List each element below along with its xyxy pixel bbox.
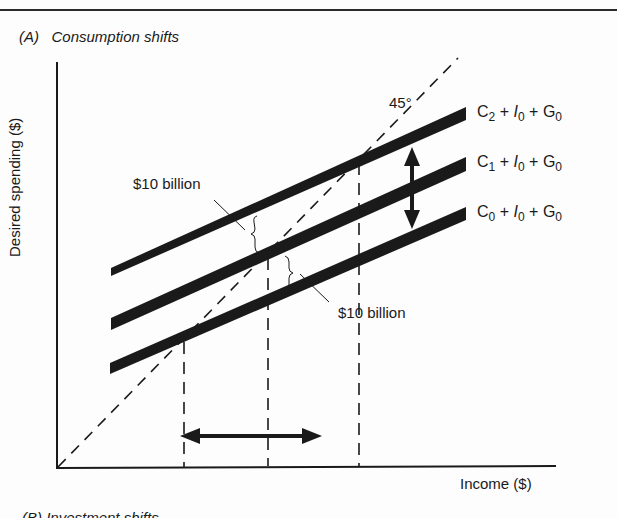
- next-panel-title: (B) Investment shifts: [22, 509, 159, 518]
- keynesian-cross-diagram: [0, 0, 617, 518]
- x-axis: [56, 466, 556, 468]
- textbook-page: (A) Consumption shifts Desired spending …: [0, 0, 617, 518]
- label-c1-i0-g0: C1 + I0 + G0: [477, 153, 562, 174]
- x-axis-label: Income ($): [460, 475, 532, 492]
- label-c0-i0-g0: C0 + I0 + G0: [477, 203, 562, 224]
- label-c2-i0-g0: C2 + I0 + G0: [477, 103, 562, 124]
- annotation-upper-gap: $10 billion: [133, 175, 201, 192]
- 45-degree-label: 45°: [389, 94, 412, 111]
- annotation-lower-gap: $10 billion: [338, 304, 406, 321]
- horizontal-shift-arrow: [180, 428, 322, 444]
